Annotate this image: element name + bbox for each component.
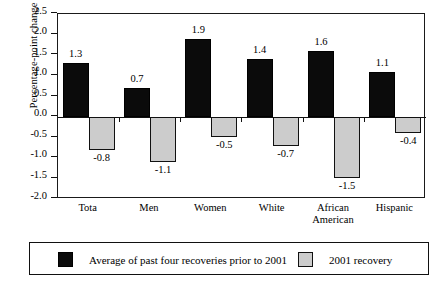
- y-tick-label: 0.5: [34, 88, 47, 99]
- y-tick-label: -1.5: [30, 170, 47, 181]
- bar-past-recoveries: [185, 39, 211, 117]
- legend-swatch-gray: [298, 252, 313, 267]
- bar-value-label: 1.9: [176, 25, 220, 36]
- bar-value-label: 1.3: [54, 49, 98, 60]
- bar-past-recoveries: [247, 59, 273, 117]
- bar-past-recoveries: [369, 72, 395, 117]
- bar-group: 1.9-0.5: [181, 14, 242, 199]
- y-tick-label: 1.0: [34, 67, 47, 78]
- bar-group: 0.7-1.1: [119, 14, 180, 199]
- bar-value-label: -0.4: [386, 136, 430, 147]
- chart-figure: Percentage-point change 2.52.01.51.00.50…: [0, 0, 436, 283]
- bar-group: 1.4-0.7: [242, 14, 303, 199]
- x-axis-label: Hispanic: [364, 202, 425, 214]
- y-tick-label: -0.5: [30, 129, 47, 140]
- bar-value-label: -1.5: [325, 181, 369, 192]
- legend-swatch-black: [58, 252, 73, 267]
- bar-value-label: -0.7: [264, 149, 308, 160]
- y-tick-label: -1.0: [30, 149, 47, 160]
- legend-item: 2001 recovery: [298, 243, 392, 276]
- bar-past-recoveries: [63, 63, 89, 116]
- bar-value-label: 1.4: [238, 45, 282, 56]
- x-axis-label: Men: [118, 202, 179, 214]
- bar-past-recoveries: [124, 88, 150, 117]
- bar-value-label: 1.1: [360, 58, 404, 69]
- bar-2001-recovery: [89, 117, 115, 150]
- y-tick-label: -2.0: [30, 191, 47, 202]
- y-tick-label: 2.0: [34, 26, 47, 37]
- bar-past-recoveries: [308, 51, 334, 117]
- bar-value-label: -1.1: [141, 165, 185, 176]
- plot-area: 1.3-0.80.7-1.11.9-0.51.4-0.71.6-1.51.1-0…: [57, 13, 425, 198]
- bar-value-label: 0.7: [115, 74, 159, 85]
- bar-group: 1.6-1.5: [303, 14, 364, 199]
- chart-legend: Average of past four recoveries prior to…: [29, 242, 429, 275]
- bar-2001-recovery: [150, 117, 176, 162]
- bar-value-label: 1.6: [299, 37, 343, 48]
- y-tick-label: 0.0: [34, 108, 47, 119]
- bar-2001-recovery: [334, 117, 360, 179]
- bar-2001-recovery: [273, 117, 299, 146]
- bar-value-label: -0.5: [202, 140, 246, 151]
- y-tick-label: 2.5: [34, 6, 47, 17]
- x-axis-label: White: [241, 202, 302, 214]
- x-axis-label: Women: [180, 202, 241, 214]
- bar-group: 1.1-0.4: [365, 14, 426, 199]
- legend-label: 2001 recovery: [329, 254, 392, 266]
- bar-2001-recovery: [395, 117, 421, 133]
- bar-group: 1.3-0.8: [58, 14, 119, 199]
- x-axis-label: African American: [302, 202, 363, 225]
- y-tick-label: 1.5: [34, 47, 47, 58]
- legend-label: Average of past four recoveries prior to…: [89, 254, 287, 266]
- x-axis-label: Tota: [57, 202, 118, 214]
- bar-value-label: -0.8: [80, 153, 124, 164]
- legend-item: Average of past four recoveries prior to…: [58, 243, 287, 276]
- bar-2001-recovery: [211, 117, 237, 138]
